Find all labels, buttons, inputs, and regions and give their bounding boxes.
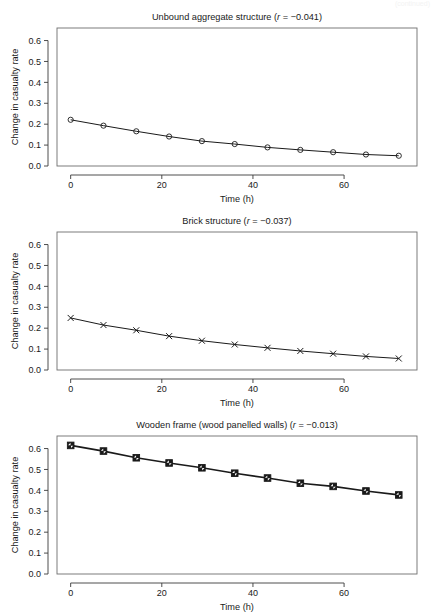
x-axis-title-2: Time (h) (220, 602, 254, 612)
data-markers-0 (68, 117, 401, 158)
y-tick-label-0-2: 0.2 (28, 119, 41, 129)
y-tick-label-0-6: 0.6 (28, 36, 41, 46)
y-tick-label-2-6: 0.6 (28, 444, 41, 454)
chart-svg-panel-1: Brick structure (r = −0.037)0.00.10.20.3… (0, 204, 436, 408)
plot-area-border-1 (57, 232, 417, 370)
chart-title-1: Brick structure (r = −0.037) (182, 216, 291, 226)
x-tick-label-2-2: 40 (248, 588, 258, 598)
y-tick-label-0-1: 0.1 (28, 140, 41, 150)
data-point-2-0 (67, 442, 74, 449)
chart-panel-brick-structure: Brick structure (r = −0.037)0.00.10.20.3… (0, 204, 436, 408)
y-tick-label-2-5: 0.5 (28, 465, 41, 475)
data-point-2-2 (133, 454, 140, 461)
x-tick-label-0-3: 60 (339, 180, 349, 190)
x-tick-label-0-0: 0 (68, 180, 73, 190)
y-tick-label-2-1: 0.1 (28, 548, 41, 558)
y-tick-label-1-6: 0.6 (28, 240, 41, 250)
data-point-2-6 (264, 475, 271, 482)
x-tick-label-2-0: 0 (68, 588, 73, 598)
plot-area-border-2 (57, 436, 417, 574)
data-point-2-9 (363, 488, 370, 495)
x-tick-label-1-3: 60 (339, 384, 349, 394)
y-tick-label-2-0: 0.0 (28, 569, 41, 579)
data-point-2-5 (231, 470, 238, 477)
y-tick-label-1-0: 0.0 (28, 365, 41, 375)
chart-title-0: Unbound aggregate structure (r = −0.041) (152, 12, 322, 22)
data-markers-1 (68, 315, 402, 362)
chart-panel-unbound-aggregate-structure: Unbound aggregate structure (r = −0.041)… (0, 0, 436, 204)
data-series-line-0 (71, 120, 399, 156)
y-axis-title-2: Change in casualty rate (10, 457, 20, 554)
y-axis-title-1: Change in casualty rate (10, 253, 20, 350)
y-tick-label-2-2: 0.2 (28, 527, 41, 537)
chart-svg-panel-2: Wooden frame (wood panelled walls) (r = … (0, 408, 436, 612)
x-tick-label-0-2: 40 (248, 180, 258, 190)
x-tick-label-1-2: 40 (248, 384, 258, 394)
x-tick-label-1-0: 0 (68, 384, 73, 394)
y-tick-label-1-2: 0.2 (28, 323, 41, 333)
y-tick-label-1-5: 0.5 (28, 261, 41, 271)
data-point-2-3 (166, 460, 173, 467)
data-point-2-8 (330, 483, 337, 490)
figure-container: (continued) Unbound aggregate structure … (0, 0, 436, 612)
y-tick-label-0-5: 0.5 (28, 57, 41, 67)
chart-svg-panel-0: Unbound aggregate structure (r = −0.041)… (0, 0, 436, 204)
y-tick-label-1-1: 0.1 (28, 344, 41, 354)
data-point-2-4 (199, 464, 206, 471)
x-tick-label-2-1: 20 (157, 588, 167, 598)
y-tick-label-0-3: 0.3 (28, 98, 41, 108)
y-tick-label-0-0: 0.0 (28, 161, 41, 171)
x-tick-label-1-1: 20 (157, 384, 167, 394)
y-tick-label-2-3: 0.3 (28, 506, 41, 516)
x-tick-label-2-3: 60 (339, 588, 349, 598)
x-axis-title-1: Time (h) (220, 398, 254, 408)
y-tick-label-1-3: 0.3 (28, 302, 41, 312)
chart-panel-wooden-frame: Wooden frame (wood panelled walls) (r = … (0, 408, 436, 612)
y-tick-label-1-4: 0.4 (28, 282, 41, 292)
x-axis-title-0: Time (h) (220, 194, 254, 204)
data-point-2-7 (297, 480, 304, 487)
y-tick-label-2-4: 0.4 (28, 486, 41, 496)
data-point-2-10 (395, 492, 402, 499)
chart-title-2: Wooden frame (wood panelled walls) (r = … (136, 420, 338, 430)
x-tick-label-0-1: 20 (157, 180, 167, 190)
data-series-line-1 (71, 318, 399, 359)
data-point-2-1 (100, 448, 107, 455)
y-tick-label-0-4: 0.4 (28, 78, 41, 88)
y-axis-title-0: Change in casualty rate (10, 49, 20, 146)
